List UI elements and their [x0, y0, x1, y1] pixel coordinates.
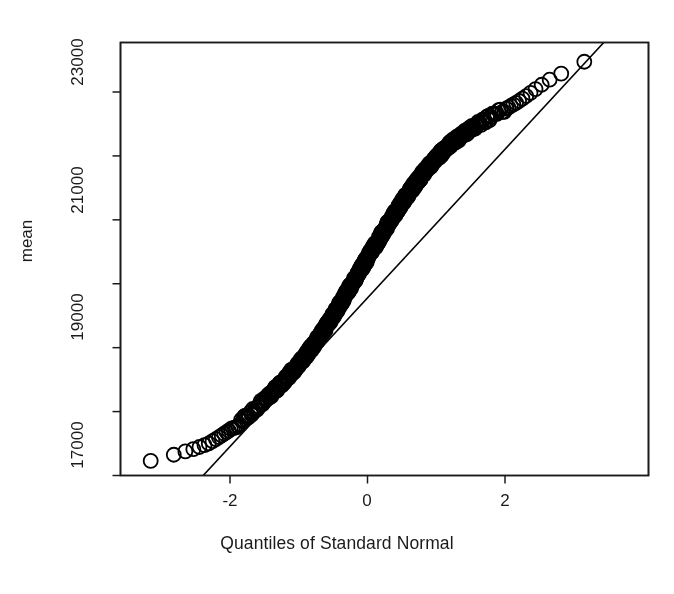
x-axis-title: Quantiles of Standard Normal: [0, 533, 674, 554]
x-tick-label-minus2: -2: [210, 491, 250, 511]
y-axis-title: mean: [17, 186, 37, 296]
qq-plot-canvas: [0, 0, 674, 594]
y-tick-label-21000: 21000: [68, 150, 88, 230]
y-tick-label-19000: 19000: [68, 277, 88, 357]
qq-plot: 17000 19000 21000 23000 -2 0 2 Quantiles…: [0, 0, 674, 594]
x-tick-label-2: 2: [485, 491, 525, 511]
y-tick-label-17000: 17000: [68, 405, 88, 485]
y-tick-label-23000: 23000: [68, 22, 88, 102]
x-tick-label-0: 0: [347, 491, 387, 511]
